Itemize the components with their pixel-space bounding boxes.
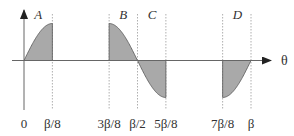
region-label-a: A bbox=[33, 7, 42, 22]
region-b-area bbox=[109, 24, 137, 61]
region-a-area bbox=[24, 24, 52, 61]
tick-label: 0 bbox=[21, 116, 28, 131]
tick-label: 5β/8 bbox=[154, 116, 177, 131]
region-labels: ABCD bbox=[33, 7, 243, 22]
tick-label: β bbox=[248, 116, 255, 131]
region-label-b: B bbox=[119, 7, 127, 22]
tick-label: 3β/8 bbox=[98, 116, 121, 131]
region-c-area bbox=[138, 61, 166, 98]
tick-label: 7β/8 bbox=[211, 116, 234, 131]
region-label-d: D bbox=[232, 7, 243, 22]
tick-label: β/2 bbox=[129, 116, 146, 131]
diagram-canvas: θ ABCD 0β/83β/8β/25β/87β/8β bbox=[0, 0, 294, 136]
region-d-area bbox=[223, 61, 251, 98]
tick-labels: 0β/83β/8β/25β/87β/8β bbox=[21, 116, 255, 131]
region-label-c: C bbox=[148, 7, 157, 22]
x-axis-label: θ bbox=[281, 53, 288, 68]
tick-label: β/8 bbox=[44, 116, 61, 131]
